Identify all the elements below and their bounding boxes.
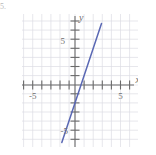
x-axis-label: x	[135, 74, 139, 85]
y-tick-label-pos5: 5	[61, 36, 66, 46]
coordinate-plane: -5 5 5 -5 y x	[22, 14, 138, 147]
coordinate-plane-svg: -5 5 5 -5 y x	[22, 14, 138, 147]
y-axis-label: y	[78, 14, 84, 23]
y-tick-label-neg5: -5	[61, 126, 69, 136]
graph-figure: 5.	[0, 0, 156, 155]
x-tick-label-pos5: 5	[118, 91, 123, 101]
axes	[22, 16, 134, 147]
x-tick-label-neg5: -5	[29, 91, 37, 101]
problem-number-label: 5.	[0, 2, 6, 11]
